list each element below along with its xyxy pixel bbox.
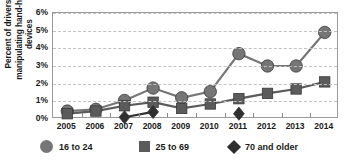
gridline (53, 101, 337, 102)
gridline (53, 48, 337, 49)
gridline (53, 31, 337, 32)
data-point-25-to-69-2013 (291, 84, 301, 94)
x-axis-tick-2013: 2013 (280, 121, 310, 131)
data-point-16-to-24-2010 (204, 85, 216, 97)
y-axis-tick-5pct: 5% (24, 25, 48, 34)
y-axis-tick-0pct: 0% (24, 114, 48, 123)
x-axis-tick-2011: 2011 (223, 121, 253, 131)
legend-label: 70 and older (245, 142, 298, 152)
gridline (53, 66, 337, 67)
x-tick-mark (196, 113, 197, 117)
data-point-25-to-69-2006 (91, 106, 101, 116)
data-point-25-to-69-2012 (262, 88, 272, 98)
x-tick-mark (110, 113, 111, 117)
x-axis-tick-2009: 2009 (166, 121, 196, 131)
legend-label: 16 to 24 (59, 142, 93, 152)
diamond-marker-icon (227, 139, 241, 153)
legend-label: 25 to 69 (156, 142, 190, 152)
data-point-25-to-69-2005 (62, 109, 72, 119)
circle-marker-icon (40, 140, 53, 153)
legend-item-16-to-24: 16 to 24 (40, 140, 93, 153)
x-tick-mark (82, 113, 83, 117)
y-axis-tick-6pct: 6% (24, 8, 48, 17)
x-axis-tick-2010: 2010 (194, 121, 224, 131)
data-point-70-and-older-2011 (233, 107, 244, 120)
series-line-25-to-69 (67, 82, 324, 114)
x-tick-mark (310, 113, 311, 117)
y-axis-tick-3pct: 3% (24, 61, 48, 70)
y-axis-tick-4pct: 4% (24, 43, 48, 52)
y-axis-tick-labels: 0%1%2%3%4%5%6% (22, 0, 48, 163)
x-tick-mark (253, 113, 254, 117)
x-tick-mark (282, 113, 283, 117)
legend-item-70-and-older: 70 and older (229, 142, 298, 152)
x-tick-mark (167, 113, 168, 117)
y-axis-tick-1pct: 1% (24, 96, 48, 105)
gridline (53, 84, 337, 85)
x-axis-tick-2007: 2007 (109, 121, 139, 131)
x-tick-mark (139, 113, 140, 117)
square-marker-icon (139, 141, 150, 152)
y-axis-tick-2pct: 2% (24, 78, 48, 87)
data-point-25-to-69-2009 (177, 103, 187, 113)
data-point-16-to-24-2014 (319, 26, 331, 38)
x-axis-tick-2005: 2005 (51, 121, 81, 131)
chart-container: Percent of drivers manipulating hand-hel… (0, 0, 344, 163)
x-axis-tick-2012: 2012 (252, 121, 282, 131)
x-tick-mark (225, 113, 226, 117)
data-point-25-to-69-2010 (205, 99, 215, 109)
data-point-25-to-69-2014 (320, 77, 330, 87)
chart-legend: 16 to 2425 to 6970 and older (40, 140, 298, 153)
legend-item-25-to-69: 25 to 69 (139, 141, 190, 152)
series-line-16-to-24 (67, 32, 324, 111)
gridline (53, 13, 337, 14)
x-axis-tick-2014: 2014 (309, 121, 339, 131)
plot-area (52, 12, 338, 118)
x-axis-tick-2006: 2006 (80, 121, 110, 131)
x-axis-tick-2008: 2008 (137, 121, 167, 131)
